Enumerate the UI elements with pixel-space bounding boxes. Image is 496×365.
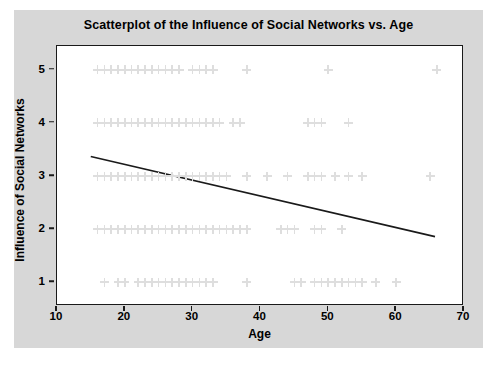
x-tick-label: 30 bbox=[177, 310, 207, 322]
y-tick-mark bbox=[49, 227, 54, 229]
x-tick-label: 40 bbox=[245, 310, 275, 322]
x-tick-mark bbox=[191, 306, 193, 311]
plot-area bbox=[56, 45, 463, 305]
chart-title: Scatterplot of the Influence of Social N… bbox=[14, 18, 483, 32]
x-tick-mark bbox=[394, 306, 396, 311]
y-tick-mark bbox=[49, 68, 54, 70]
x-tick-label: 60 bbox=[380, 310, 410, 322]
x-tick-mark bbox=[55, 306, 57, 311]
y-axis: 12345 bbox=[30, 45, 54, 305]
x-tick-mark bbox=[259, 306, 261, 311]
x-tick-mark bbox=[123, 306, 125, 311]
regression-trendline bbox=[57, 46, 462, 304]
x-tick-label: 10 bbox=[41, 310, 71, 322]
y-tick-mark bbox=[49, 280, 54, 282]
x-tick-mark bbox=[462, 306, 464, 311]
x-axis-title: Age bbox=[56, 327, 463, 341]
chart-panel: Scatterplot of the Influence of Social N… bbox=[14, 10, 483, 348]
y-tick-label: 4 bbox=[25, 116, 45, 128]
x-tick-label: 50 bbox=[312, 310, 342, 322]
y-tick-label: 3 bbox=[25, 169, 45, 181]
y-tick-label: 1 bbox=[25, 275, 45, 287]
y-tick-mark bbox=[49, 121, 54, 123]
x-tick-mark bbox=[327, 306, 329, 311]
x-axis: 10203040506070 bbox=[56, 306, 463, 326]
x-tick-label: 70 bbox=[448, 310, 478, 322]
x-tick-label: 20 bbox=[109, 310, 139, 322]
y-tick-label: 2 bbox=[25, 222, 45, 234]
plot-inner bbox=[57, 46, 462, 304]
y-tick-mark bbox=[49, 174, 54, 176]
y-tick-label: 5 bbox=[25, 63, 45, 75]
